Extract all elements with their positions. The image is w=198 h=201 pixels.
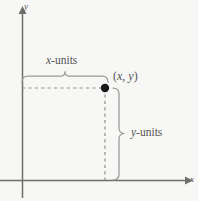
y-axis-label: y: [24, 2, 28, 11]
diagram-canvas: [0, 0, 198, 201]
y-units-suffix: -units: [136, 126, 162, 138]
point-coordinate-label: (x, y): [113, 70, 138, 82]
x-axis: [0, 177, 193, 185]
y-axis: [19, 6, 27, 198]
brace-x-units: [22, 72, 108, 83]
x-units-label: x-units: [46, 55, 77, 67]
y-units-label: y-units: [131, 127, 162, 139]
paren-close: ): [134, 69, 138, 83]
x-axis-label: x: [190, 175, 194, 184]
coordinate-diagram: x-units y-units (x, y) y x: [0, 0, 198, 201]
plotted-point: [101, 84, 109, 92]
brace-y-units: [113, 88, 124, 180]
x-units-suffix: -units: [51, 54, 77, 66]
